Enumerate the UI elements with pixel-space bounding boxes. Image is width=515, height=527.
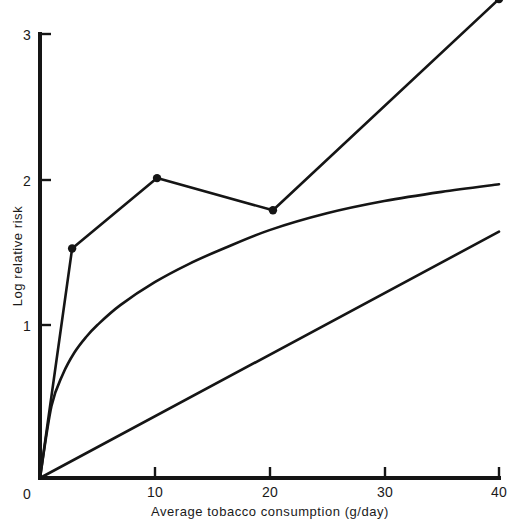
- series-observed-data: [40, 0, 503, 478]
- data-point-marker: [269, 206, 277, 214]
- y-tick-label-0: 0: [23, 486, 31, 502]
- data-point-marker: [68, 244, 76, 252]
- x-tick-label-30: 30: [377, 484, 393, 500]
- x-axis-title: Average tobacco consumption (g/day): [151, 504, 389, 519]
- y-tick-label-3: 3: [23, 27, 31, 43]
- observed-data-line: [40, 0, 499, 478]
- x-tick-label-40: 40: [491, 484, 507, 500]
- x-axis-group: [40, 467, 499, 478]
- x-tick-label-20: 20: [262, 484, 278, 500]
- series-linear-fit: [40, 232, 499, 478]
- data-point-marker: [153, 174, 161, 182]
- x-tick-label-10: 10: [147, 484, 163, 500]
- x-tick-labels: 10 20 30 40: [147, 484, 507, 500]
- linear-fit-line: [40, 232, 499, 478]
- chart-plot-area: 3 2 1 0 10 20 30 40 Average tobacco cons…: [0, 0, 515, 527]
- y-axis-title: Log relative risk: [10, 206, 25, 306]
- observed-data-markers: [68, 0, 503, 253]
- chart-figure: 3 2 1 0 10 20 30 40 Average tobacco cons…: [0, 0, 515, 527]
- y-tick-label-2: 2: [23, 173, 31, 189]
- series-fitted-curve: [40, 184, 499, 478]
- fitted-curve-line: [40, 184, 499, 478]
- y-tick-label-1: 1: [23, 318, 31, 334]
